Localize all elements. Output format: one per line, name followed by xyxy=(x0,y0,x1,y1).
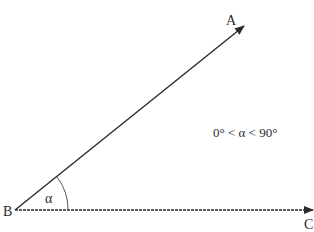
angle-diagram: A B C α 0° < α < 90° xyxy=(0,0,314,232)
angle-symbol: α xyxy=(45,191,53,206)
label-a: A xyxy=(226,13,237,28)
label-b: B xyxy=(3,204,12,219)
angle-condition: 0° < α < 90° xyxy=(213,125,277,140)
label-c: C xyxy=(304,217,313,232)
ray-ba xyxy=(15,26,244,210)
angle-arc xyxy=(57,177,68,210)
